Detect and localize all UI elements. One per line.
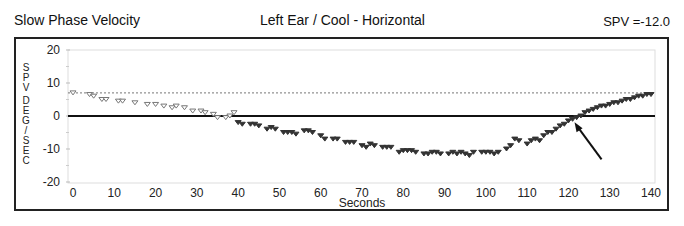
data-point	[272, 127, 278, 131]
x-tick-label: 90	[438, 186, 452, 200]
arrow-annotation	[577, 125, 602, 159]
y-axis-label: V	[23, 82, 30, 93]
y-tick-label: -10	[43, 142, 61, 156]
data-point	[181, 106, 187, 110]
data-point	[120, 99, 126, 103]
data-point	[169, 106, 175, 110]
y-axis-label: C	[22, 155, 29, 166]
x-axis-label: Seconds	[339, 196, 386, 210]
data-point	[516, 139, 522, 143]
data-point	[537, 139, 543, 143]
data-point	[603, 104, 609, 108]
data-point	[504, 147, 510, 151]
x-tick-label: 10	[108, 186, 122, 200]
data-point	[437, 152, 443, 156]
y-tick-label: 20	[47, 43, 61, 57]
x-tick-label: 20	[149, 186, 163, 200]
x-tick-label: 60	[314, 186, 328, 200]
data-point	[190, 109, 196, 113]
data-point	[640, 94, 646, 98]
data-point	[388, 145, 394, 149]
data-point	[103, 98, 109, 102]
data-point	[627, 98, 633, 102]
y-tick-label: 0	[53, 109, 60, 123]
data-point	[264, 127, 270, 131]
data-point	[466, 154, 472, 158]
data-point	[215, 116, 221, 120]
data-point	[454, 152, 460, 156]
data-point	[91, 94, 97, 98]
data-point	[144, 102, 150, 106]
data-point	[491, 152, 497, 156]
x-tick-label: 80	[397, 186, 411, 200]
data-point	[549, 131, 555, 135]
data-point	[334, 137, 340, 141]
data-point	[648, 93, 654, 97]
x-tick-label: 120	[558, 186, 578, 200]
x-tick-label: 110	[518, 186, 537, 200]
x-tick-label: 100	[476, 186, 496, 200]
data-point	[425, 152, 431, 156]
x-tick-label: 40	[231, 186, 245, 200]
data-point	[223, 116, 229, 120]
data-point	[132, 101, 138, 105]
data-point	[256, 124, 262, 128]
data-point	[446, 152, 452, 156]
y-tick-label: 10	[47, 76, 61, 90]
data-point	[363, 145, 369, 149]
data-point	[293, 132, 299, 136]
data-point	[351, 140, 357, 144]
data-point	[202, 111, 208, 115]
data-point	[615, 101, 621, 105]
data-point	[396, 150, 402, 154]
x-tick-label: 0	[70, 186, 77, 200]
x-tick-label: 140	[641, 186, 661, 200]
spv-plot: 20100-10-2001020304050607080901001101201…	[0, 0, 684, 226]
data-point	[153, 102, 159, 106]
x-tick-label: 130	[600, 186, 620, 200]
data-point	[70, 91, 76, 95]
data-point	[309, 131, 315, 135]
data-point	[322, 137, 328, 141]
data-point	[524, 142, 530, 146]
data-point	[541, 134, 547, 138]
data-point	[371, 144, 377, 148]
y-tick-label: -20	[43, 175, 61, 189]
x-tick-label: 30	[190, 186, 204, 200]
x-tick-label: 50	[273, 186, 287, 200]
data-point	[413, 150, 419, 154]
data-point	[161, 104, 167, 108]
data-point	[239, 122, 245, 126]
